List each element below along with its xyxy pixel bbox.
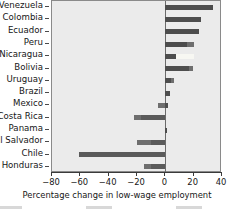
x-tick-label: 20 (187, 177, 198, 187)
x-tick (79, 172, 80, 176)
category-tick (45, 80, 49, 81)
x-tick (51, 172, 52, 176)
category-label-mexico: Mexico (13, 99, 43, 108)
category-tick (45, 92, 49, 93)
bar-colombia (165, 17, 200, 22)
bar-peru (165, 42, 187, 47)
bar-venezuela (165, 5, 212, 10)
bar-el-salvador (151, 140, 165, 145)
footer-strip-left (0, 206, 22, 209)
bar-nicaragua (165, 54, 176, 59)
category-label-panama: Panama (9, 124, 43, 133)
x-tick (221, 172, 222, 176)
category-label-uruguay: Uruguay (6, 75, 43, 84)
x-tick-label: 0 (162, 177, 167, 187)
category-label-ecuador: Ecuador (8, 26, 43, 35)
category-tick (45, 31, 49, 32)
x-tick-label: −80 (42, 177, 60, 187)
category-tick (45, 166, 49, 167)
bar-brazil (165, 91, 169, 96)
category-tick (45, 18, 49, 19)
x-tick (108, 172, 109, 176)
footer-strip-mid (86, 206, 112, 209)
x-tick-label: −20 (127, 177, 145, 187)
category-tick (45, 68, 49, 69)
category-axis: VenezuelaColombiaEcuadorPeruNicaraguaBol… (0, 0, 49, 172)
bar-ecuador (165, 29, 199, 34)
bar-honduras (151, 164, 165, 169)
x-tick-label: −40 (99, 177, 117, 187)
x-tick (164, 172, 165, 176)
category-label-peru: Peru (24, 38, 43, 47)
bar-outer-mexico (158, 103, 165, 108)
x-tick (136, 172, 137, 176)
category-tick (45, 43, 49, 44)
category-tick (45, 141, 49, 142)
bar-bolivia (165, 66, 189, 71)
chart-figure: VenezuelaColombiaEcuadorPeruNicaraguaBol… (0, 0, 234, 209)
x-axis-title: Percentage change in low-wage employment (0, 190, 234, 200)
category-label-nicaragua: Nicaragua (0, 50, 43, 59)
category-label-costa-rica: Costa Rica (0, 112, 43, 121)
bar-panama (165, 128, 166, 133)
category-label-bolivia: Bolivia (14, 63, 43, 72)
category-label-el-salvador: El Salvador (0, 136, 43, 145)
category-tick (45, 104, 49, 105)
category-tick (45, 6, 49, 7)
bar-costa-rica (141, 115, 165, 120)
category-tick (45, 154, 49, 155)
bar-chile (79, 152, 165, 157)
x-tick-label: 40 (216, 177, 227, 187)
bar-uruguay (165, 78, 171, 83)
category-label-venezuela: Venezuela (0, 1, 43, 10)
category-label-brazil: Brazil (19, 87, 43, 96)
category-tick (45, 55, 49, 56)
footer-strip-right (176, 206, 202, 209)
bar-mexico (165, 103, 168, 108)
plot-area (51, 0, 221, 172)
x-tick (193, 172, 194, 176)
category-label-honduras: Honduras (2, 161, 43, 170)
zero-reference-line (165, 1, 166, 173)
category-label-chile: Chile (21, 149, 43, 158)
category-tick (45, 129, 49, 130)
x-tick-label: −60 (70, 177, 88, 187)
category-label-colombia: Colombia (3, 13, 43, 22)
category-tick (45, 117, 49, 118)
